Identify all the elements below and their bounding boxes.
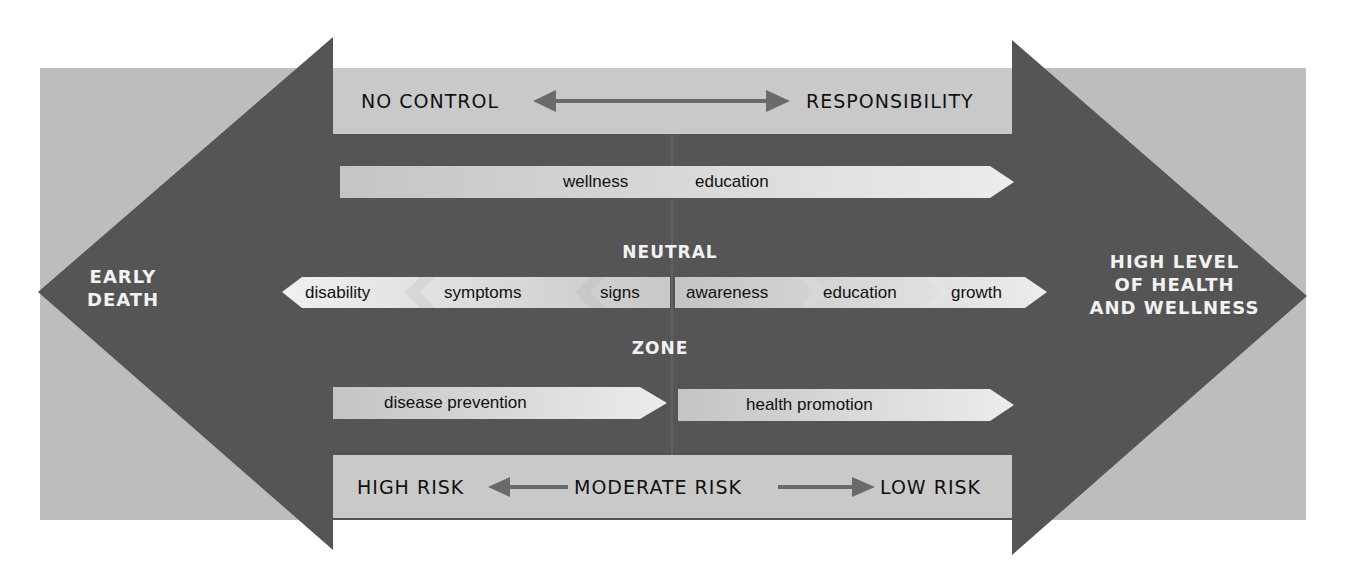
responsibility-label: RESPONSIBILITY bbox=[806, 90, 974, 112]
wellness-education-arrow bbox=[340, 166, 1014, 198]
chain-disability: disability bbox=[305, 283, 370, 303]
early-death-line1: EARLY bbox=[78, 265, 168, 288]
chain-growth: growth bbox=[951, 283, 1002, 303]
high-level-line2: OF HEALTH bbox=[1082, 273, 1267, 296]
high-level-wellness-label: HIGH LEVEL OF HEALTH AND WELLNESS bbox=[1082, 250, 1267, 319]
neutral-label: NEUTRAL bbox=[610, 241, 730, 264]
health-promotion-text: health promotion bbox=[746, 395, 873, 415]
early-death-label: EARLY DEATH bbox=[78, 265, 168, 311]
high-level-line1: HIGH LEVEL bbox=[1082, 250, 1267, 273]
high-level-line3: AND WELLNESS bbox=[1082, 296, 1267, 319]
wellness-text: wellness bbox=[563, 172, 628, 192]
chain-education: education bbox=[823, 283, 897, 303]
high-risk-label: HIGH RISK bbox=[357, 476, 464, 498]
no-control-label: NO CONTROL bbox=[361, 90, 499, 112]
zone-label: ZONE bbox=[610, 337, 710, 360]
moderate-risk-label: MODERATE RISK bbox=[574, 476, 742, 498]
disease-prevention-text: disease prevention bbox=[384, 393, 527, 413]
early-death-line2: DEATH bbox=[78, 288, 168, 311]
chain-awareness: awareness bbox=[686, 283, 768, 303]
education-text: education bbox=[695, 172, 769, 192]
chain-signs: signs bbox=[600, 283, 640, 303]
low-risk-label: LOW RISK bbox=[880, 476, 981, 498]
chain-symptoms: symptoms bbox=[444, 283, 521, 303]
